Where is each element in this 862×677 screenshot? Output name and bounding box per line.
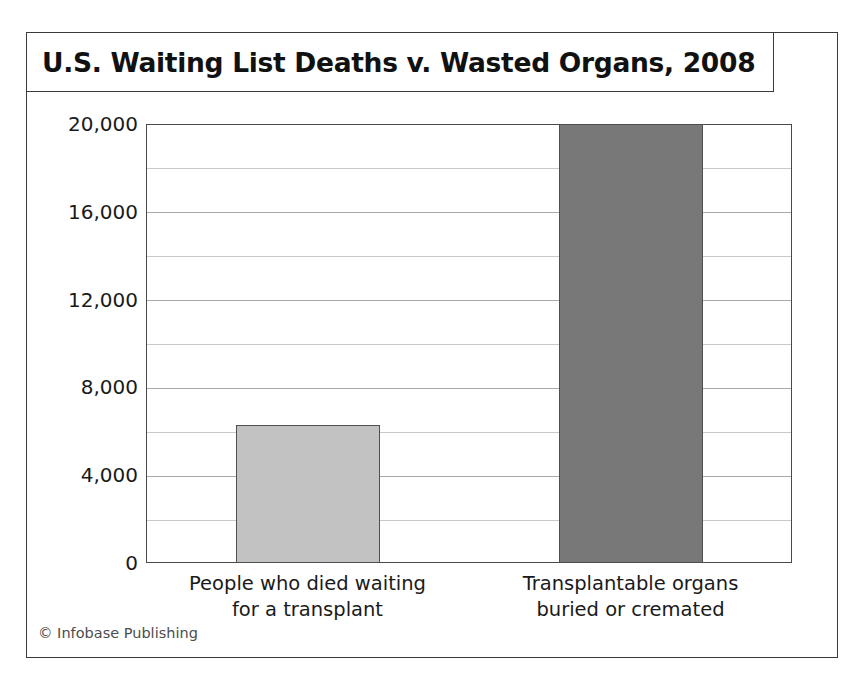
chart-title-box: U.S. Waiting List Deaths v. Wasted Organ… bbox=[26, 32, 774, 92]
copyright-notice: © Infobase Publishing bbox=[38, 625, 198, 641]
y-axis-tick-label: 8,000 bbox=[18, 375, 138, 399]
page-title: U.S. Waiting List Deaths v. Wasted Organ… bbox=[27, 47, 755, 78]
category-label-line: People who died waiting bbox=[146, 571, 469, 597]
chart-figure: U.S. Waiting List Deaths v. Wasted Organ… bbox=[0, 0, 862, 677]
y-axis-tick-label: 4,000 bbox=[18, 463, 138, 487]
category-label-1: People who died waitingfor a transplant bbox=[146, 571, 469, 622]
category-label-line: Transplantable organs bbox=[469, 571, 792, 597]
bar-1 bbox=[236, 425, 380, 563]
category-label-2: Transplantable organsburied or cremated bbox=[469, 571, 792, 622]
y-axis-tick-label: 20,000 bbox=[18, 112, 138, 136]
category-label-line: buried or cremated bbox=[469, 597, 792, 623]
y-axis-tick-labels: 04,0008,00012,00016,00020,000 bbox=[16, 124, 138, 563]
category-label-line: for a transplant bbox=[146, 597, 469, 623]
y-axis-tick-label: 12,000 bbox=[18, 288, 138, 312]
bar-2 bbox=[559, 124, 703, 563]
y-axis-tick-label: 0 bbox=[18, 551, 138, 575]
y-axis-tick-label: 16,000 bbox=[18, 200, 138, 224]
